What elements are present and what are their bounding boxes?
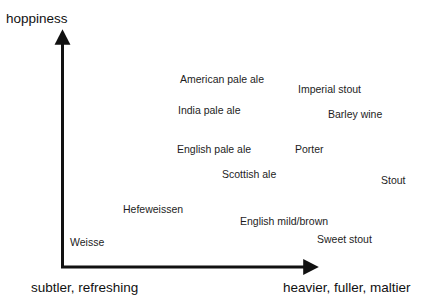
data-point-label: India pale ale (178, 104, 240, 116)
data-point-label: Scottish ale (222, 168, 276, 180)
y-axis-label: hoppiness (6, 11, 68, 26)
data-point-label: Stout (381, 174, 406, 186)
x-axis-label-high: heavier, fuller, maltier (283, 280, 411, 295)
data-point-label: Imperial stout (298, 83, 361, 95)
data-point-label: Weisse (70, 236, 104, 248)
data-point-label: English pale ale (177, 143, 251, 155)
x-axis-label-low: subtler, refreshing (31, 280, 138, 295)
data-point-label: English mild/brown (240, 215, 328, 227)
data-point-label: Barley wine (328, 108, 382, 120)
data-point-label: American pale ale (180, 73, 264, 85)
data-point-label: Sweet stout (317, 233, 372, 245)
data-point-label: Porter (295, 143, 324, 155)
beer-style-chart: hoppiness subtler, refreshing heavier, f… (0, 0, 425, 303)
data-point-label: Hefeweissen (123, 203, 183, 215)
